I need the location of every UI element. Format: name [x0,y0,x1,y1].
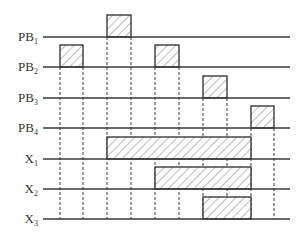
signal-row-x2: X2 [25,167,290,198]
signal-label-pb2: PB2 [18,59,38,76]
signal-label-x3: X3 [25,211,38,228]
pulse-x1 [107,137,251,159]
pulse-pb3 [203,76,227,98]
signal-row-pb2: PB2 [18,45,290,76]
signal-label-subscript: 2 [34,189,38,198]
signal-row-pb3: PB3 [18,76,290,107]
signal-label-subscript: 1 [34,37,38,46]
signal-label-x2: X2 [25,181,38,198]
signal-row-x1: X1 [25,137,290,168]
timing-diagram: PB1PB2PB3PB4X1X2X3 [0,0,305,236]
signal-label-subscript: 1 [34,159,38,168]
signal-row-pb4: PB4 [18,106,290,137]
signal-rows: PB1PB2PB3PB4X1X2X3 [18,15,290,228]
signal-label-subscript: 4 [34,128,38,137]
signal-label-pb1: PB1 [18,29,38,46]
signal-label-subscript: 3 [34,98,38,107]
signal-label-pb3: PB3 [18,90,38,107]
signal-label-name: PB [18,59,34,74]
signal-label-pb4: PB4 [18,120,38,137]
signal-label-x1: X1 [25,151,38,168]
pulse-pb1 [107,15,131,37]
signal-label-subscript: 2 [34,67,38,76]
pulse-x2 [155,167,251,189]
pulse-pb4 [251,106,274,128]
signal-label-name: PB [18,29,34,44]
signal-label-name: PB [18,90,34,105]
signal-label-name: PB [18,120,34,135]
signal-label-subscript: 3 [34,219,38,228]
pulse-pb2 [155,45,179,67]
pulse-pb2 [60,45,83,67]
signal-row-x3: X3 [25,197,290,228]
pulse-x3 [203,197,251,219]
signal-row-pb1: PB1 [18,15,290,46]
